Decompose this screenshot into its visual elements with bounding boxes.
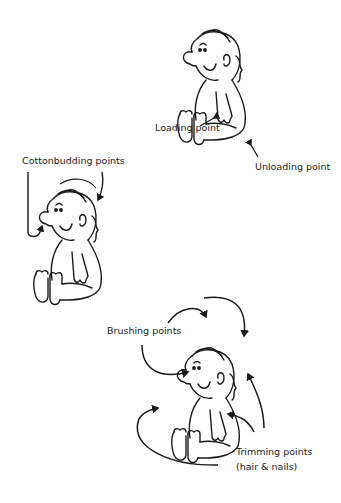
trimming-arrow-right [248,374,264,428]
unloading-arrow [251,145,258,157]
baby-figure-bottom [172,348,239,463]
trimming-arrow-mid [228,414,254,432]
brushing-points-label: Brushing points [107,325,181,337]
cottonbud-swoosh [60,179,96,188]
trimming-arrow-bottom [137,408,218,465]
cottonbud-arrow-left [28,172,42,237]
cottonbud-arrow-right [98,172,103,200]
baby-figure-left [34,190,101,305]
cottonbudding-points-label: Cottonbudding points [22,155,125,167]
loading-point-label: Loading point [155,122,220,134]
illustration [0,0,341,503]
brushing-arrow-top-1 [168,309,206,323]
trimming-points-sublabel: (hair & nails) [236,461,297,473]
brushing-arrow-top-2 [204,297,245,336]
unloading-point-label: Unloading point [255,161,330,173]
trimming-points-label: Trimming points [236,446,312,458]
